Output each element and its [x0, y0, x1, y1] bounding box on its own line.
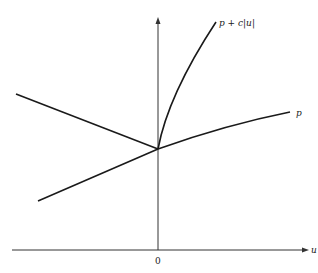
label-p-plus-c-abs-u: p + c|u| [219, 18, 255, 29]
u-axis-arrow-icon [302, 248, 309, 253]
label-origin: 0 [155, 256, 161, 266]
curve-left-upper [16, 94, 158, 149]
curve-left-lower [38, 149, 158, 201]
diagram-canvas: p + c|u| p u 0 [0, 0, 318, 273]
label-u-axis: u [311, 245, 317, 255]
vertical-axis-arrow-icon [156, 17, 161, 24]
curve-p-plus-c-abs-u [158, 22, 216, 149]
label-p: p [296, 108, 302, 118]
curve-p [158, 112, 290, 149]
